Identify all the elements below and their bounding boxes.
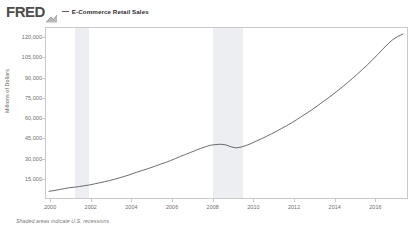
x-axis-tick-mark [335, 199, 336, 202]
x-axis-tick-label: 2012 [288, 204, 300, 210]
x-axis-tick-label: 2016 [369, 204, 381, 210]
x-axis-tick-mark [91, 199, 92, 202]
recession-footnote: Shaded areas indicate U.S. recessions [16, 218, 109, 224]
chart-legend: E-Commerce Retail Sales [62, 8, 149, 15]
series-line-ecommerce-retail-sales [46, 28, 407, 198]
x-axis-tick-label: 2002 [85, 204, 97, 210]
x-axis-tick-label: 2004 [125, 204, 137, 210]
x-axis-tick-label: 2000 [44, 204, 56, 210]
fred-logo[interactable]: FRED [6, 4, 45, 19]
x-axis-tick-mark [50, 199, 51, 202]
x-axis-tick-mark [213, 199, 214, 202]
x-axis-tick-label: 2006 [166, 204, 178, 210]
x-axis-tick-mark [172, 199, 173, 202]
chart-header: FRED E-Commerce Retail Sales [0, 0, 417, 22]
legend-line-dash-icon [62, 11, 69, 12]
x-axis-tick-label: 2010 [247, 204, 259, 210]
x-axis-tick-mark [131, 199, 132, 202]
x-axis-tick-label: 2008 [207, 204, 219, 210]
fred-chart-glyph-icon [46, 9, 57, 18]
x-axis-tick-label: 2014 [329, 204, 341, 210]
x-axis-tick-mark [253, 199, 254, 202]
x-axis-tick-mark [294, 199, 295, 202]
y-axis-tick-marks [0, 27, 45, 199]
x-axis-tick-mark [375, 199, 376, 202]
plot-area [45, 27, 408, 199]
legend-series-label: E-Commerce Retail Sales [72, 8, 149, 15]
fred-chart-screenshot: FRED E-Commerce Retail Sales Millions of… [0, 0, 417, 232]
x-axis-tick-labels: 200020022004200620082010201220142016 [45, 199, 408, 213]
